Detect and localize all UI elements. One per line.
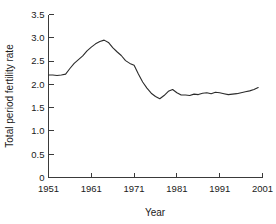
y-tick-label: 3.0 <box>31 32 44 43</box>
x-axis-ticks: 195119611971198119912001 <box>38 173 273 194</box>
fertility-rate-chart: 00.51.01.52.02.53.03.5 19511961197119811… <box>0 0 276 224</box>
x-tick-label: 1951 <box>38 183 59 194</box>
x-tick-label: 1981 <box>166 183 187 194</box>
y-tick-label: 3.5 <box>31 9 44 20</box>
y-tick-label: 0 <box>39 172 44 183</box>
x-tick-label: 1991 <box>209 183 230 194</box>
y-tick-label: 2.5 <box>31 55 44 66</box>
y-tick-label: 0.5 <box>31 149 44 160</box>
fertility-rate-line <box>49 40 259 99</box>
x-tick-label: 1971 <box>124 183 145 194</box>
y-tick-label: 1.5 <box>31 102 44 113</box>
x-tick-label: 2001 <box>252 183 273 194</box>
y-axis-ticks: 00.51.01.52.02.53.03.5 <box>31 9 53 183</box>
y-tick-label: 1.0 <box>31 125 44 136</box>
chart-plot-area: 00.51.01.52.02.53.03.5 19511961197119811… <box>0 0 276 224</box>
y-tick-label: 2.0 <box>31 79 44 90</box>
x-axis-title: Year <box>145 207 166 218</box>
x-tick-label: 1961 <box>81 183 102 194</box>
y-axis-title: Total period fertility rate <box>4 44 15 148</box>
